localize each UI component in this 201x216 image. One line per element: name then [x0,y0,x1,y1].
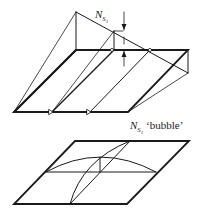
hinge-marker [110,48,113,51]
fan-line [90,50,150,112]
hinge-marker [87,110,91,115]
fan-line [14,50,76,112]
arrow-down-icon [122,24,127,30]
fan-line [52,31,114,112]
fan-line [52,50,114,112]
label-subsub: 1 [106,20,109,25]
hinge-marker [148,48,151,51]
diagram-canvas [0,0,201,216]
fan-line [128,73,188,112]
hinge-marker [49,110,53,115]
top-slab-diagram [14,12,188,115]
label-subsub: 1 [141,131,144,136]
top-deflection-label: NS1 [95,8,108,25]
bottom-bubble-diagram [14,141,189,204]
label-suffix: ‘bubble’ [143,119,183,131]
bubble-label: NS1 ‘bubble’ [130,119,183,136]
bubble-arc-transverse [46,157,156,172]
arrow-up-icon [122,51,127,57]
ridge-line [76,12,188,73]
